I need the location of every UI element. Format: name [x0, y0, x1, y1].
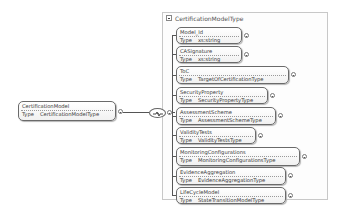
collapse-icon[interactable] — [166, 15, 172, 21]
element-name: EvidenceAggregation — [180, 170, 235, 175]
expand-icon[interactable] — [244, 52, 249, 57]
type-label: Type — [180, 117, 192, 123]
type-label: Type — [22, 111, 34, 117]
element-type: AssessmentSchemeType — [198, 117, 262, 123]
element-name: ValidityTests — [180, 130, 212, 135]
element-type: TargetOfCertificationType — [198, 76, 264, 82]
type-label: Type — [180, 56, 192, 62]
element-type: xs:string — [198, 56, 220, 62]
sequence-compositor-icon[interactable] — [149, 108, 166, 118]
element-name: Model_Id — [180, 30, 203, 35]
expand-icon[interactable] — [270, 93, 275, 98]
element-type: MonitoringConfigurationsType — [198, 157, 276, 163]
element-box-monitoring-configurations[interactable]: MonitoringConfigurations TypeMonitoringC… — [176, 147, 300, 166]
expand-icon[interactable] — [288, 193, 293, 198]
root-element-box[interactable]: CertificationModel TypeCertificationMode… — [18, 101, 116, 121]
element-box-model-id[interactable]: Model_Id Typexs:string — [176, 27, 242, 44]
connector-line — [123, 112, 149, 113]
element-type: ValidityTestsType — [198, 137, 242, 143]
expand-icon[interactable] — [288, 173, 293, 178]
type-label: Type — [180, 197, 192, 203]
type-label: Type — [180, 137, 192, 143]
tree-trunk-line — [172, 35, 173, 195]
element-box-casignature[interactable]: CASignature Typexs:string — [176, 46, 242, 63]
element-type: CertificationModelType — [40, 111, 99, 117]
complex-type-title: CertificationModelType — [175, 15, 243, 22]
element-name: MonitoringConfigurations — [180, 150, 246, 155]
expand-icon[interactable] — [302, 154, 307, 159]
type-label: Type — [180, 76, 192, 82]
element-name: CertificationModel — [22, 104, 69, 109]
element-type: EvidenceAggregationType — [198, 177, 265, 183]
element-name: LifeCycleModel — [180, 190, 219, 195]
complex-type-header: CertificationModelType — [166, 13, 243, 23]
element-type: StateTransitionModelType — [198, 197, 264, 203]
element-box-security-property[interactable]: SecurityProperty TypeSecurityPropertyTyp… — [176, 87, 268, 104]
type-label: Type — [180, 37, 192, 43]
element-box-validity-tests[interactable]: ValidityTests TypeValidityTestsType — [176, 127, 256, 144]
expand-icon[interactable] — [244, 33, 249, 38]
element-name: SecurityProperty — [180, 90, 223, 95]
element-type: SecurityPropertyType — [198, 97, 253, 103]
element-name: CASignature — [180, 49, 212, 54]
expand-icon[interactable] — [258, 133, 263, 138]
type-label: Type — [180, 157, 192, 163]
element-name: AssessmentScheme — [180, 110, 232, 115]
type-label: Type — [180, 97, 192, 103]
expand-icon[interactable] — [291, 72, 296, 77]
expand-icon[interactable] — [278, 113, 283, 118]
element-box-toc[interactable]: ToC TypeTargetOfCertificationType — [176, 66, 289, 84]
type-label: Type — [180, 177, 192, 183]
element-box-evidence-aggregation[interactable]: EvidenceAggregation TypeEvidenceAggregat… — [176, 167, 286, 185]
element-name: ToC — [180, 69, 189, 74]
element-type: xs:string — [198, 37, 220, 43]
element-box-lifecycle-model[interactable]: LifeCycleModel TypeStateTransitionModelT… — [176, 187, 286, 204]
element-box-assessment-scheme[interactable]: AssessmentScheme TypeAssessmentSchemeTyp… — [176, 107, 276, 125]
